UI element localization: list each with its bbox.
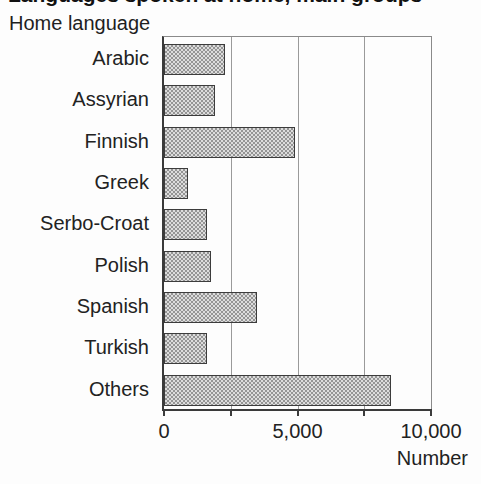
x-axis-tick-label: 0 <box>158 420 169 443</box>
bar-row <box>164 78 431 119</box>
category-label-column: ArabicAssyrianFinnishGreekSerbo-CroatPol… <box>0 36 155 408</box>
category-label: Others <box>0 367 155 408</box>
category-label-text: Spanish <box>77 295 149 318</box>
bar-serbo-croat <box>164 209 207 240</box>
cropped-chart-title: Languages spoken at home, main groups <box>8 0 428 6</box>
category-label: Greek <box>0 160 155 201</box>
bar-spanish <box>164 292 257 323</box>
x-axis-tick <box>363 409 365 416</box>
bars-container <box>164 37 431 409</box>
category-label-text: Turkish <box>84 336 149 359</box>
bar-others <box>164 375 391 406</box>
bar-assyrian <box>164 85 215 116</box>
bar-row <box>164 37 431 78</box>
category-label: Polish <box>0 243 155 284</box>
bar-arabic <box>164 44 225 75</box>
bar-finnish <box>164 127 295 158</box>
x-axis-tick-label: 5,000 <box>272 420 322 443</box>
category-label: Turkish <box>0 325 155 366</box>
category-label-text: Assyrian <box>72 88 149 111</box>
chart-subtitle: Home language <box>9 11 150 35</box>
bar-turkish <box>164 333 207 364</box>
x-axis-tick <box>297 409 299 416</box>
category-label-text: Serbo-Croat <box>40 212 149 235</box>
bar-row <box>164 285 431 326</box>
x-axis-tick <box>163 409 165 416</box>
bar-greek <box>164 168 188 199</box>
category-label: Serbo-Croat <box>0 201 155 242</box>
bar-row <box>164 120 431 161</box>
plot-area: 05,00010,000 Number <box>162 36 432 411</box>
bar-polish <box>164 251 211 282</box>
bar-row <box>164 368 431 409</box>
category-label-text: Arabic <box>92 47 149 70</box>
x-axis-tick <box>430 409 432 416</box>
category-label-text: Polish <box>95 254 149 277</box>
x-axis-tick <box>230 409 232 416</box>
category-label-text: Others <box>89 378 149 401</box>
bar-row <box>164 161 431 202</box>
category-label: Spanish <box>0 284 155 325</box>
bar-row <box>164 202 431 243</box>
category-label: Assyrian <box>0 77 155 118</box>
category-label-text: Greek <box>95 171 149 194</box>
bar-row <box>164 244 431 285</box>
x-axis-title: Number <box>397 447 468 470</box>
cropped-chart-title-text: Languages spoken at home, main groups <box>8 0 428 5</box>
category-label-text: Finnish <box>85 130 149 153</box>
bar-row <box>164 326 431 367</box>
category-label: Arabic <box>0 36 155 77</box>
category-label: Finnish <box>0 119 155 160</box>
x-axis-tick-label: 10,000 <box>400 420 461 443</box>
